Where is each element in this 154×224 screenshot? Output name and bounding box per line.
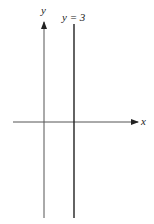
coordinate-graph: y y = 3 x: [0, 0, 154, 224]
line-label: y = 3: [61, 11, 86, 23]
y-axis-label: y: [40, 4, 46, 16]
x-axis-label: x: [140, 115, 146, 127]
